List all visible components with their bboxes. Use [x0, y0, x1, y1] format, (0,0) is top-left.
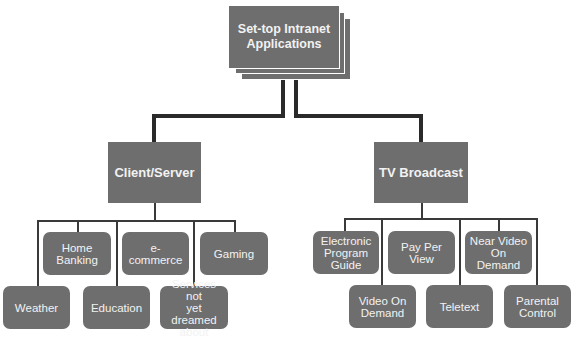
connector-near-video	[498, 218, 500, 231]
leaf-label: Electronic Program Guide	[321, 235, 372, 271]
leaf-label: Parental Control	[516, 295, 559, 319]
leaf-parental-control: Parental Control	[504, 285, 571, 328]
leaf-label: Teletext	[440, 301, 480, 313]
leaf-electronic-program-guide: Electronic Program Guide	[313, 231, 379, 274]
leaf-label: Home Banking	[56, 242, 98, 266]
connector-parental	[536, 218, 538, 285]
leaf-label: Gaming	[214, 248, 254, 260]
leaf-weather: Weather	[3, 286, 70, 329]
leaf-services-not-yet-dreamed: Services not yet dreamed about	[160, 286, 228, 329]
leaf-label: Pay Per View	[401, 241, 442, 265]
connector-video-on-demand	[381, 218, 383, 285]
leaf-education: Education	[83, 286, 150, 329]
leaf-label: Education	[91, 302, 142, 314]
branch-node-client-server: Client/Server	[108, 142, 201, 203]
connector-root-right-vertical	[294, 80, 298, 118]
connector-right-drop	[419, 114, 423, 142]
connector-root-left-horizontal	[152, 114, 285, 118]
connector-left-drop	[152, 114, 156, 142]
leaf-pay-per-view: Pay Per View	[388, 231, 455, 274]
leaf-label: Video On Demand	[359, 295, 407, 319]
connector-right-bus	[344, 218, 538, 220]
connector-root-left-vertical	[281, 80, 285, 118]
connector-epg	[344, 218, 346, 231]
connector-weather	[37, 220, 39, 286]
leaf-near-video-on-demand: Near Video On Demand	[465, 231, 532, 274]
connector-teletext	[459, 218, 461, 285]
branch-label: TV Broadcast	[379, 165, 463, 180]
leaf-home-banking: Home Banking	[43, 232, 111, 275]
connector-home-banking	[77, 220, 79, 232]
leaf-label: Weather	[15, 302, 58, 314]
leaf-label: Services not yet dreamed about	[163, 278, 225, 338]
root-node-label: Set-top Intranet Applications	[238, 22, 330, 52]
leaf-label: e-commerce	[125, 242, 186, 266]
branch-node-tv-broadcast: TV Broadcast	[374, 142, 468, 203]
leaf-gaming: Gaming	[200, 232, 268, 275]
leaf-teletext: Teletext	[426, 285, 493, 328]
leaf-label: Near Video On Demand	[468, 235, 529, 271]
connector-gaming	[234, 220, 236, 232]
connector-education	[116, 220, 118, 286]
connector-left-bus	[37, 220, 236, 222]
root-node: Set-top Intranet Applications	[229, 6, 339, 68]
leaf-e-commerce: e-commerce	[122, 232, 189, 275]
branch-label: Client/Server	[114, 165, 194, 180]
connector-root-right-horizontal	[294, 114, 423, 118]
leaf-video-on-demand: Video On Demand	[349, 285, 416, 328]
connector-services	[193, 220, 195, 286]
